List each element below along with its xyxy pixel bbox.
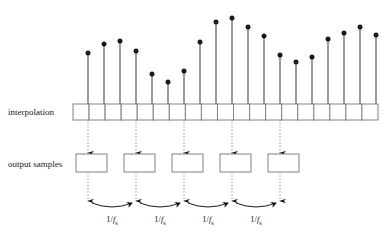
period-arc [188, 203, 228, 207]
output-sample-box [172, 154, 203, 172]
stem-marker [342, 31, 347, 36]
period-arc [92, 203, 132, 207]
interpolation-cell [282, 104, 298, 120]
period-label: 1/fs [154, 214, 166, 226]
stem-marker [86, 51, 91, 56]
interpolation-cell [314, 104, 330, 120]
interpolation-cell [362, 104, 378, 120]
period-arc [140, 203, 180, 207]
stem-marker [166, 80, 171, 85]
interpolation-cell [105, 104, 121, 120]
stem-marker [102, 42, 107, 47]
interpolation-cell [121, 104, 137, 120]
interpolation-cell [234, 104, 250, 120]
stem-marker [118, 39, 123, 44]
stem-marker [374, 33, 379, 38]
stem-marker [230, 16, 235, 21]
output-sample-box [76, 154, 107, 172]
period-label: 1/fs [202, 214, 214, 226]
interpolation-cell [330, 104, 346, 120]
output-sample-box [268, 154, 299, 172]
period-label: 1/fs [250, 214, 262, 226]
interp-to-output-connectors [88, 120, 280, 153]
stem-marker [326, 37, 331, 42]
period-subscript: s [163, 220, 166, 226]
output-to-timeline-connectors [88, 172, 280, 201]
interpolation-cells [73, 104, 378, 120]
diagram-canvas: 1/fs1/fs1/fs1/fs interpolation output sa… [0, 0, 382, 234]
interpolation-cell [137, 104, 153, 120]
interpolation-diagram: 1/fs1/fs1/fs1/fs interpolation output sa… [0, 0, 382, 234]
stem-marker [182, 69, 187, 74]
interpolation-cell [250, 104, 266, 120]
stem-marker [214, 20, 219, 25]
interpolation-cell [217, 104, 233, 120]
stem-marker [198, 40, 203, 45]
output-sample-box [124, 154, 155, 172]
stem-marker [294, 60, 299, 65]
stem-marker [310, 55, 315, 60]
stem-marker [134, 49, 139, 54]
period-subscript: s [115, 220, 118, 226]
interpolation-cell [266, 104, 282, 120]
stem-marker [262, 34, 267, 39]
period-subscript: s [211, 220, 214, 226]
interpolation-cell [169, 104, 185, 120]
interpolation-cell [89, 104, 105, 120]
output-sample-boxes [76, 154, 299, 172]
stem-marker [246, 25, 251, 30]
interpolation-cell [346, 104, 362, 120]
interpolation-cell [201, 104, 217, 120]
period-label: 1/fs [106, 214, 118, 226]
output-samples-label: output samples [8, 159, 63, 169]
interpolation-label: interpolation [8, 107, 54, 117]
period-subscript: s [259, 220, 262, 226]
period-arc [236, 203, 276, 207]
stem-marker [358, 25, 363, 30]
output-sample-box [220, 154, 251, 172]
stem-group [86, 16, 379, 105]
stem-marker [278, 53, 283, 58]
interpolation-cell [185, 104, 201, 120]
interpolation-cell [73, 104, 89, 120]
interpolation-cell [298, 104, 314, 120]
stem-marker [150, 72, 155, 77]
interpolation-cell [153, 104, 169, 120]
period-markers: 1/fs1/fs1/fs1/fs [92, 203, 276, 226]
